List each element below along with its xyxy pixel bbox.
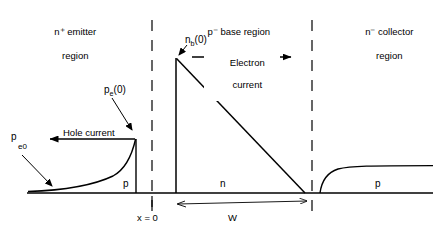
- collector-region-label-line1: n⁻ collector: [365, 26, 413, 37]
- emitter-region-label-line1: n⁺ emitter: [54, 26, 96, 37]
- electron-current-label: Electron current: [204, 46, 280, 101]
- emitter-hole-concentration-curve: [28, 139, 136, 192]
- carrier-concentration-diagram: n⁺ emitter region p⁻ base region n⁻ coll…: [0, 0, 433, 240]
- emitter-carrier-text: p: [123, 178, 129, 189]
- pe0-label: pe0: [11, 131, 27, 152]
- x-origin-label: x = 0: [137, 212, 158, 224]
- emitter-region-label: n⁺ emitter region: [25, 14, 115, 74]
- base-carrier-text: n: [220, 178, 226, 189]
- pe-zero-leader-line: [112, 98, 132, 130]
- collector-carrier-text: p: [375, 178, 381, 189]
- base-carrier-label: n: [220, 178, 226, 190]
- collector-carrier-label: p: [375, 178, 381, 190]
- electron-current-line1: Electron: [230, 57, 265, 68]
- pe-zero-tail: (0): [114, 84, 126, 95]
- pe-zero-label: pe(0): [104, 84, 126, 99]
- base-width-label: W: [228, 212, 237, 224]
- nb-zero-tail: (0): [195, 34, 207, 45]
- collector-region-label-line2: region: [376, 50, 402, 61]
- pe0-sub: e0: [11, 141, 27, 153]
- electron-current-line2: current: [232, 79, 262, 90]
- base-width-arrow: [178, 201, 307, 204]
- emitter-carrier-label: p: [123, 178, 129, 190]
- collector-region-label: n⁻ collector region: [341, 14, 427, 74]
- x-origin-text: x = 0: [137, 212, 158, 223]
- base-region-label-line1: p⁻ base region: [207, 26, 270, 37]
- hole-current-label: Hole current: [63, 127, 115, 139]
- hole-current-text: Hole current: [63, 127, 115, 138]
- pe0-main: p: [11, 131, 17, 142]
- emitter-region-label-line2: region: [62, 50, 88, 61]
- pe0-leader-line: [22, 155, 52, 186]
- base-width-text: W: [228, 212, 237, 223]
